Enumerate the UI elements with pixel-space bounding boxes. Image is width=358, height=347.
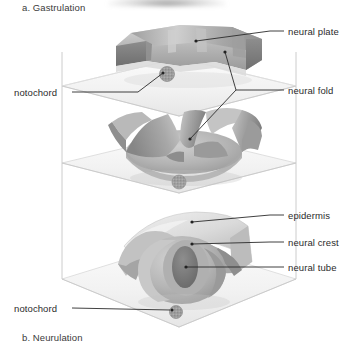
- label-neural-crest: neural crest: [288, 237, 339, 248]
- label-neural-plate: neural plate: [288, 26, 339, 37]
- label-neural-fold: neural fold: [288, 85, 333, 96]
- stage-1-neural-plate-embryo: [116, 25, 262, 88]
- figure-caption-neurulation: b. Neurulation: [22, 332, 83, 343]
- label-neural-tube: neural tube: [288, 262, 337, 273]
- label-epidermis: epidermis: [288, 210, 330, 221]
- diagram-canvas: [0, 0, 358, 347]
- notochord-marker-2: [172, 175, 186, 189]
- figure-caption-gastrulation: a. Gastrulation: [22, 2, 85, 13]
- neurulation-figure: a. Gastrulation b. Neurulation neural pl…: [0, 0, 358, 347]
- label-notochord-bottom: notochord: [14, 303, 57, 314]
- label-notochord-top: notochord: [14, 87, 57, 98]
- notochord-marker-3: [170, 306, 183, 319]
